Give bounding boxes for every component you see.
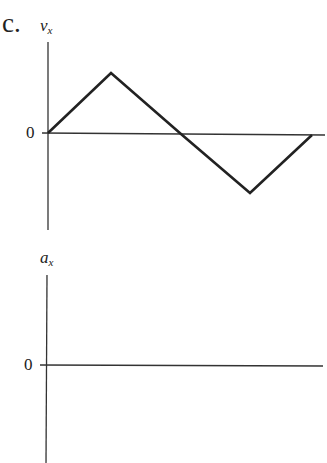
ax-sub: x [49, 256, 54, 268]
part-label: c. [2, 8, 21, 39]
vx-sub: x [48, 24, 53, 36]
vx-axis-label: vx [40, 16, 52, 36]
ax-zero-label: 0 [24, 355, 33, 375]
vx-var: v [40, 16, 48, 35]
ax-axis-label: ax [40, 248, 53, 268]
ax-var: a [40, 248, 49, 267]
ax-horizontal-axis [40, 365, 323, 366]
vx-zero-label: 0 [26, 123, 35, 143]
diagram-canvas [0, 0, 327, 463]
ax-vertical-axis [46, 275, 47, 463]
